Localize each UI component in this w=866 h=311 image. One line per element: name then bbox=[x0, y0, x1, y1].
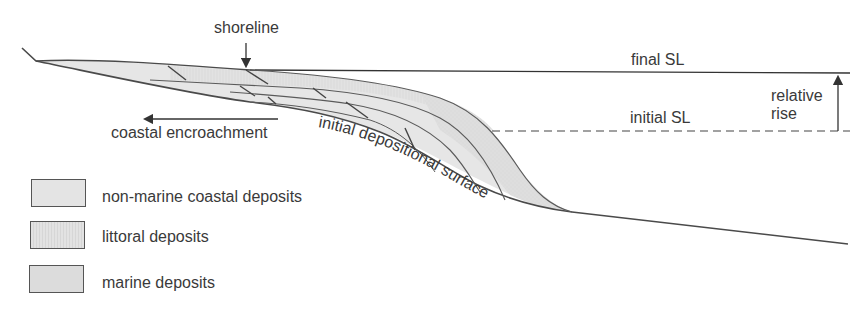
legend-swatch-marine bbox=[29, 265, 84, 293]
legend-label-marine: marine deposits bbox=[102, 275, 215, 291]
relative-rise-label-2: rise bbox=[771, 106, 797, 122]
initial-sl-label: initial SL bbox=[630, 110, 690, 126]
legend-swatch-littoral bbox=[30, 221, 85, 249]
cross-section-diagram: initial depositional surface bbox=[0, 0, 866, 311]
legend-label-non-marine: non-marine coastal deposits bbox=[102, 189, 302, 205]
coastal-encroachment-label: coastal encroachment bbox=[111, 125, 268, 141]
final-sl-label: final SL bbox=[631, 52, 684, 68]
relative-rise-label-1: relative bbox=[771, 88, 823, 104]
legend-swatch-non-marine bbox=[31, 179, 86, 207]
shoreline-label: shoreline bbox=[214, 20, 279, 36]
legend-label-littoral: littoral deposits bbox=[102, 229, 209, 245]
final-sl-line bbox=[250, 70, 850, 73]
